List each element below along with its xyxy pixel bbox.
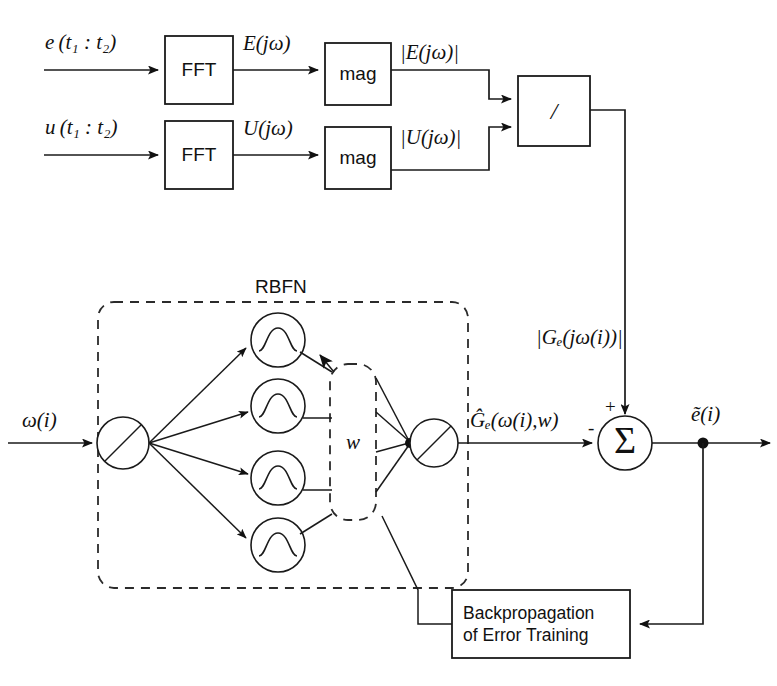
- rbfn-output-node: [410, 419, 458, 467]
- signal-label-mag-out-u: |U(jω)|: [400, 127, 461, 148]
- sum-plus-sign: +: [605, 397, 616, 416]
- hidden-node-1: [251, 313, 305, 367]
- diagram-vector-layer: [0, 0, 777, 686]
- divider-label: /: [518, 99, 590, 123]
- signal-label-divider-out: |Gₑ(jω(i))|: [536, 327, 623, 348]
- sum-sigma-label: Σ: [598, 421, 652, 459]
- signal-label-fft-out-e: E(jω): [243, 33, 290, 54]
- wire-weights-to-out-1: [376, 378, 409, 441]
- wire-mag-top-to-divider: [391, 70, 511, 99]
- wire-in-to-hidden-4: [149, 443, 246, 538]
- signal-label-rbfn-output: Ĝₑ(ω(i),w): [470, 410, 559, 431]
- mag-bottom-label: mag: [330, 148, 386, 167]
- signal-label-mag-out-e: |E(jω)|: [400, 42, 459, 63]
- fft-bottom-label: FFT: [173, 145, 225, 164]
- hidden-node-2: [251, 379, 305, 433]
- wire-divider-to-sum: [590, 110, 625, 414]
- wire-backprop-to-weights: [382, 516, 452, 624]
- signal-label-rbfn-input: ω(i): [22, 410, 57, 431]
- sum-minus-sign: -: [588, 418, 594, 437]
- backpropagation-block-label: Backpropagation of Error Training: [463, 603, 594, 647]
- rbfn-group-title: RBFN: [255, 277, 307, 296]
- wire-weights-to-out-2: [376, 412, 409, 441]
- hidden-node-3: [251, 451, 305, 505]
- signal-label-input-u: u (t₁ : t₂): [45, 117, 117, 138]
- signal-label-input-e: e (t₁ : t₂): [45, 32, 116, 53]
- wire-hidden4-to-weights: [300, 514, 332, 534]
- wire-hidden1-to-weights: [300, 352, 332, 372]
- block-diagram-canvas: FFT FFT mag mag / e (t₁ : t₂) u (t₁ : t₂…: [0, 0, 777, 686]
- rbfn-input-node: [97, 417, 149, 469]
- signal-label-fft-out-u: U(jω): [243, 118, 293, 139]
- backprop-line-1: Backpropagation: [463, 603, 594, 625]
- wire-weights-to-out-3: [376, 443, 409, 452]
- weights-label: w: [330, 432, 376, 453]
- signal-label-error-out: ẽ(i): [691, 404, 720, 425]
- wire-error-feedback-to-backprop: [640, 443, 703, 624]
- wire-in-to-hidden-1: [149, 348, 246, 443]
- wire-weights-to-out-4: [376, 445, 409, 492]
- mag-top-label: mag: [330, 64, 386, 83]
- fft-top-label: FFT: [173, 60, 225, 79]
- backprop-line-2: of Error Training: [463, 625, 594, 647]
- hidden-node-4: [251, 518, 305, 572]
